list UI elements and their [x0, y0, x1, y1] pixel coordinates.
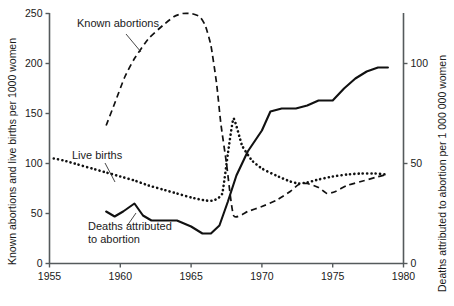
y-axis-left-ticks: 050100150200250	[25, 7, 50, 269]
x-ticklabel: 1965	[179, 270, 203, 282]
x-ticklabel: 1955	[38, 270, 62, 282]
y-ticklabel-right: 0	[411, 257, 417, 269]
y-ticklabel-left: 150	[25, 107, 43, 119]
y-axis-left-title: Known abortions and live births per 1000…	[6, 38, 18, 265]
x-ticklabel: 1970	[250, 270, 274, 282]
y-axis-right-title: Deaths attributed to abortion per 1 000 …	[436, 55, 448, 292]
y-ticklabel-left: 50	[31, 207, 43, 219]
label-live-births: Live births	[72, 149, 123, 161]
y-ticklabel-left: 250	[25, 7, 43, 19]
annotation-leaders	[105, 34, 141, 226]
x-ticklabel: 1975	[321, 270, 345, 282]
chart-container: 050100150200250 050100 19551960196519701…	[0, 0, 454, 306]
x-axis-ticks: 195519601965197019751980	[38, 264, 416, 282]
y-ticklabel-right: 50	[411, 157, 423, 169]
series-deaths-attributed-to-abortion	[106, 68, 388, 234]
x-ticklabel: 1980	[392, 270, 416, 282]
y-axis-right-ticks: 050100	[404, 57, 429, 269]
y-ticklabel-left: 100	[25, 157, 43, 169]
leader-known-abortions	[126, 34, 141, 52]
y-ticklabel-right: 100	[411, 57, 429, 69]
line-chart: 050100150200250 050100 19551960196519701…	[0, 0, 454, 306]
y-ticklabel-left: 0	[37, 257, 43, 269]
series-group	[54, 13, 388, 233]
x-ticklabel: 1960	[109, 270, 133, 282]
label-known-abortions: Known abortions	[77, 17, 159, 29]
y-ticklabel-left: 200	[25, 57, 43, 69]
label-deaths-line2: to abortion	[88, 233, 140, 245]
label-deaths-line1: Deaths attributed	[88, 220, 172, 232]
